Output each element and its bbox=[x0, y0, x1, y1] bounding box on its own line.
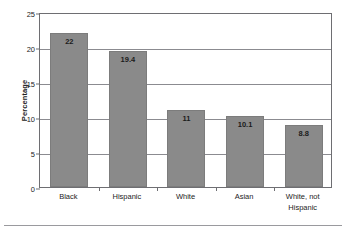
x-axis-labels: BlackHispanicWhiteAsianWhite, notHispani… bbox=[39, 191, 332, 225]
bar-value-label: 10.1 bbox=[227, 120, 263, 129]
bar-slot: 8.8 bbox=[274, 14, 333, 187]
y-tick-label: 20 bbox=[27, 45, 35, 54]
x-axis-category-line: Asian bbox=[215, 191, 274, 202]
x-axis-category-label: White bbox=[156, 191, 215, 202]
y-tick-label: 15 bbox=[27, 80, 35, 89]
plot-area: 0510152025 2219.41110.18.8 bbox=[39, 13, 332, 188]
bottom-divider bbox=[4, 225, 342, 226]
bar: 10.1 bbox=[226, 116, 264, 187]
bar-slot: 11 bbox=[157, 14, 216, 187]
bar: 8.8 bbox=[285, 125, 323, 187]
y-tick-mark bbox=[36, 189, 40, 190]
x-axis-category-label: Black bbox=[39, 191, 98, 202]
x-axis-category-label: Hispanic bbox=[98, 191, 157, 202]
x-axis-category-line: White bbox=[156, 191, 215, 202]
bar-value-label: 19.4 bbox=[110, 55, 146, 64]
y-axis-title: Percentage bbox=[20, 61, 29, 141]
x-axis-category-label: White, notHispanic bbox=[273, 191, 332, 213]
y-tick-label: 5 bbox=[31, 150, 35, 159]
bar-value-label: 22 bbox=[51, 37, 87, 46]
x-axis-category-label: Asian bbox=[215, 191, 274, 202]
bar-slot: 19.4 bbox=[99, 14, 158, 187]
bar-value-label: 8.8 bbox=[286, 129, 322, 138]
y-tick-label: 10 bbox=[27, 115, 35, 124]
bar-slot: 10.1 bbox=[216, 14, 275, 187]
bars-layer: 2219.41110.18.8 bbox=[40, 14, 331, 187]
x-axis-category-line: Black bbox=[39, 191, 98, 202]
bar-chart-figure: Percentage 0510152025 2219.41110.18.8 Bl… bbox=[0, 0, 346, 233]
x-axis-category-line: White, not bbox=[273, 191, 332, 202]
bar: 22 bbox=[50, 33, 88, 187]
bar: 19.4 bbox=[109, 51, 147, 187]
y-tick-label: 0 bbox=[31, 185, 35, 194]
bar-value-label: 11 bbox=[168, 114, 204, 123]
bar-slot: 22 bbox=[40, 14, 99, 187]
x-axis-category-line: Hispanic bbox=[273, 202, 332, 213]
y-tick-label: 25 bbox=[27, 10, 35, 19]
bar: 11 bbox=[167, 110, 205, 187]
x-axis-category-line: Hispanic bbox=[98, 191, 157, 202]
